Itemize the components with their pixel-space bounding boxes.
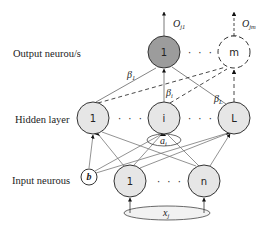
output-node-m: m: [218, 36, 250, 68]
hidden-ellipsis-right: · · ·: [188, 113, 214, 124]
output-om-label: Ojm: [242, 18, 256, 30]
hidden-layer-label: Hidden layer: [15, 114, 70, 125]
svg-text:1: 1: [161, 47, 167, 58]
svg-text:b: b: [87, 171, 92, 182]
svg-text:i: i: [163, 113, 166, 124]
beta-i-label: βi: [165, 87, 173, 99]
input-node-n: n: [188, 165, 220, 197]
beta-1-label: β1: [126, 69, 135, 81]
output-layer-label: Output neurou/s: [13, 48, 81, 59]
output-ellipsis: · · ·: [188, 47, 214, 58]
input-ellipsis: · · ·: [157, 176, 183, 187]
hidden-node-i: i: [148, 102, 180, 134]
svg-text:1: 1: [90, 113, 96, 124]
svg-text:L: L: [231, 113, 237, 124]
beta-L-label: βL: [213, 93, 223, 105]
output-node-1: 1: [148, 36, 180, 68]
svg-text:m: m: [229, 47, 239, 58]
weight-a-label: ai: [160, 135, 167, 147]
bias-node: b: [81, 169, 97, 185]
svg-text:1: 1: [127, 176, 133, 187]
svg-text:n: n: [201, 176, 207, 187]
input-layer-label: Input neurous: [12, 175, 70, 186]
input-node-1: 1: [114, 165, 146, 197]
hidden-node-L: L: [218, 102, 250, 134]
hidden-ellipsis-left: · · ·: [118, 113, 144, 124]
output-o1-label: Oj1: [173, 18, 185, 30]
neural-network-diagram: Output neurou/s Hidden layer Input neuro…: [0, 0, 268, 230]
hidden-node-1: 1: [77, 102, 109, 134]
